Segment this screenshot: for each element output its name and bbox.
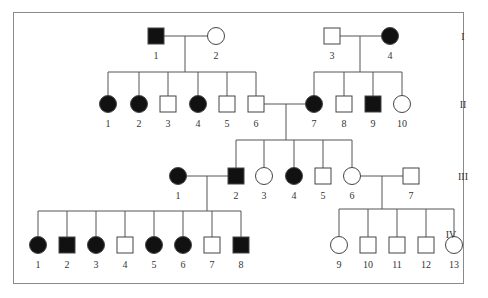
unaffected-male-square [204, 237, 220, 253]
pedigree-chart: 123412345678910123456712345678910111213 … [0, 0, 488, 298]
affected-female-circle [306, 96, 323, 113]
individual-II-4: 4 [190, 96, 207, 130]
individual-number: 7 [409, 190, 414, 201]
individual-number: 3 [166, 118, 171, 129]
unaffected-male-square [219, 96, 235, 112]
individual-number: 5 [225, 118, 230, 129]
individual-number: 3 [94, 259, 99, 270]
individual-I-2: 2 [208, 28, 225, 62]
affected-male-square [148, 28, 164, 44]
individuals: 123412345678910123456712345678910111213 [30, 28, 463, 271]
individual-number: 1 [154, 50, 159, 61]
generation-label: II [460, 99, 467, 110]
individual-number: 13 [449, 259, 459, 270]
individual-number: 6 [254, 118, 259, 129]
individual-III-2: 2 [228, 168, 244, 201]
unaffected-female-circle [331, 237, 348, 254]
individual-II-1: 1 [100, 96, 117, 130]
individual-III-4: 4 [286, 168, 303, 202]
unaffected-male-square [389, 237, 405, 253]
individual-number: 1 [36, 259, 41, 270]
unaffected-female-circle [256, 168, 273, 185]
unaffected-male-square [360, 237, 376, 253]
affected-male-square [365, 96, 381, 112]
unaffected-female-circle [208, 28, 225, 45]
affected-male-square [233, 237, 249, 253]
affected-female-circle [100, 96, 117, 113]
unaffected-female-circle [394, 96, 411, 113]
affected-male-square [59, 237, 75, 253]
individual-number: 4 [123, 259, 128, 270]
unaffected-male-square [160, 96, 176, 112]
individual-IV-11: 11 [389, 237, 405, 270]
generation-label: IV [446, 229, 457, 240]
individual-number: 4 [388, 50, 393, 61]
unaffected-male-square [248, 96, 264, 112]
individual-number: 1 [106, 118, 111, 129]
individual-IV-6: 6 [175, 237, 192, 271]
individual-number: 10 [397, 118, 407, 129]
individual-I-3: 3 [324, 28, 340, 61]
generation-label: III [458, 171, 468, 182]
individual-III-1: 1 [170, 168, 187, 202]
individual-IV-13: 13 [446, 237, 463, 271]
individual-IV-10: 10 [360, 237, 376, 270]
individual-number: 3 [330, 50, 335, 61]
generation-label: I [461, 31, 464, 42]
individual-III-3: 3 [256, 168, 273, 202]
unaffected-male-square [403, 168, 419, 184]
individual-number: 12 [421, 259, 431, 270]
individual-I-1: 1 [148, 28, 164, 61]
individual-number: 2 [65, 259, 70, 270]
individual-number: 9 [337, 259, 342, 270]
unaffected-male-square [117, 237, 133, 253]
individual-II-2: 2 [131, 96, 148, 130]
individual-number: 5 [152, 259, 157, 270]
individual-number: 7 [210, 259, 215, 270]
affected-female-circle [131, 96, 148, 113]
individual-II-10: 10 [394, 96, 411, 130]
individual-IV-4: 4 [117, 237, 133, 270]
individual-number: 2 [137, 118, 142, 129]
affected-female-circle [382, 28, 399, 45]
unaffected-female-circle [344, 168, 361, 185]
individual-number: 5 [321, 190, 326, 201]
individual-number: 1 [176, 190, 181, 201]
individual-number: 4 [292, 190, 297, 201]
individual-II-5: 5 [219, 96, 235, 129]
individual-III-5: 5 [315, 168, 331, 201]
individual-number: 6 [181, 259, 186, 270]
individual-I-4: 4 [382, 28, 399, 62]
individual-IV-8: 8 [233, 237, 249, 270]
individual-IV-5: 5 [146, 237, 163, 271]
individual-number: 2 [234, 190, 239, 201]
affected-female-circle [30, 237, 47, 254]
individual-number: 4 [196, 118, 201, 129]
affected-female-circle [190, 96, 207, 113]
unaffected-male-square [324, 28, 340, 44]
individual-number: 7 [312, 118, 317, 129]
individual-IV-2: 2 [59, 237, 75, 270]
affected-female-circle [286, 168, 303, 185]
individual-IV-12: 12 [418, 237, 434, 270]
unaffected-male-square [418, 237, 434, 253]
individual-number: 2 [214, 50, 219, 61]
affected-male-square [228, 168, 244, 184]
affected-female-circle [175, 237, 192, 254]
individual-IV-9: 9 [331, 237, 348, 271]
individual-III-6: 6 [344, 168, 361, 202]
affected-female-circle [88, 237, 105, 254]
individual-number: 11 [392, 259, 402, 270]
individual-number: 8 [342, 118, 347, 129]
individual-number: 8 [239, 259, 244, 270]
individual-IV-3: 3 [88, 237, 105, 271]
individual-II-6: 6 [248, 96, 264, 129]
individual-III-7: 7 [403, 168, 419, 201]
individual-number: 3 [262, 190, 267, 201]
affected-female-circle [170, 168, 187, 185]
individual-IV-7: 7 [204, 237, 220, 270]
unaffected-male-square [315, 168, 331, 184]
affected-female-circle [146, 237, 163, 254]
individual-number: 9 [371, 118, 376, 129]
individual-IV-1: 1 [30, 237, 47, 271]
